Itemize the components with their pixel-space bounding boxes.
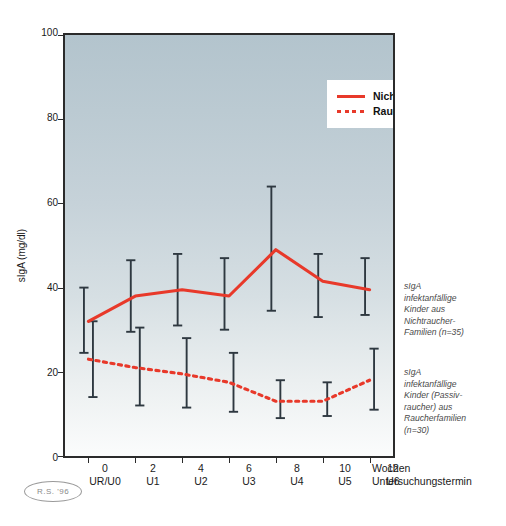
annotation-line: Kinder (Passiv- xyxy=(404,390,504,402)
errorbars-nichtraucher xyxy=(79,187,369,353)
x-tick-mark xyxy=(182,458,183,463)
x-axis-unit-untersuchungstermin: Untersuchungstermin xyxy=(372,475,472,487)
y-tick-mark xyxy=(58,119,63,120)
annotation-line: Nichtraucher- xyxy=(404,316,504,328)
annotation-line: Raucherfamilien xyxy=(404,413,504,425)
x-tick-mark xyxy=(323,458,324,463)
legend-label-raucher: Raucher (n=30) xyxy=(373,105,395,117)
y-tick-mark xyxy=(58,372,63,373)
annotation-line: Familien (n=35) xyxy=(404,327,504,339)
y-tick-20: 20 xyxy=(18,368,58,378)
plot-area: Nichtraucher (n=35) Raucher (n=30) xyxy=(63,33,395,458)
annotation-line: infektanfällige xyxy=(404,293,504,305)
y-tick-mark xyxy=(58,35,63,36)
legend: Nichtraucher (n=35) Raucher (n=30) xyxy=(327,80,395,128)
legend-line-dashed-icon xyxy=(337,106,365,116)
y-tick-mark xyxy=(58,288,63,289)
y-tick-60: 60 xyxy=(18,198,58,208)
legend-item-raucher: Raucher (n=30) xyxy=(337,105,395,117)
annotation-line: sIgA xyxy=(404,281,504,293)
y-axis-title: sIgA (mg/dl) xyxy=(16,211,27,301)
y-tick-100: 100 xyxy=(18,28,58,38)
annotation-raucher: sIgAinfektanfälligeKinder (Passiv-rauche… xyxy=(404,367,504,437)
annotation-line: (n=30) xyxy=(404,425,504,437)
author-stamp: R.S. '96 xyxy=(24,481,82,502)
y-tick-80: 80 xyxy=(18,113,58,123)
x-tick-mark xyxy=(88,458,89,463)
annotation-line: infektanfällige xyxy=(404,379,504,391)
x-tick-mark xyxy=(229,458,230,463)
chart-root: 100 80 60 40 20 0 sIgA (mg/dl) Nichtrauc… xyxy=(0,0,506,526)
y-tick-marks xyxy=(56,33,64,458)
errorbars-raucher xyxy=(88,321,378,418)
y-tick-mark xyxy=(58,456,63,457)
x-tick-mark xyxy=(135,458,136,463)
legend-item-nichtraucher: Nichtraucher (n=35) xyxy=(337,90,395,102)
x-tick-mark xyxy=(276,458,277,463)
legend-label-nichtraucher: Nichtraucher (n=35) xyxy=(373,90,395,102)
legend-line-solid-icon xyxy=(337,91,365,101)
annotation-line: raucher) aus xyxy=(404,402,504,414)
annotation-nichtraucher: sIgAinfektanfälligeKinder ausNichtrauche… xyxy=(404,281,504,339)
annotation-line: sIgA xyxy=(404,367,504,379)
y-tick-mark xyxy=(58,203,63,204)
x-tick-marks xyxy=(63,458,395,466)
x-tick-mark xyxy=(370,458,371,463)
annotation-line: Kinder aus xyxy=(404,304,504,316)
